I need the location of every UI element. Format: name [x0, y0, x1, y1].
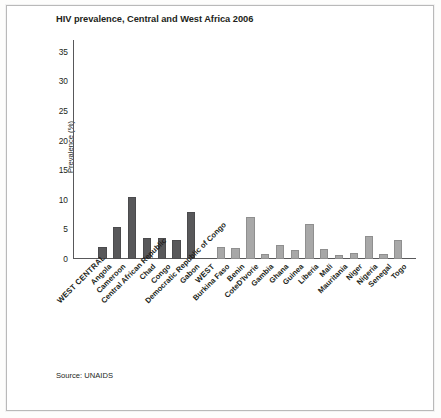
- bar: [394, 240, 402, 259]
- x-axis-ticks: WEST CENTRALAngolaCameroonCentral Africa…: [73, 262, 433, 382]
- bar: [276, 245, 284, 259]
- bar: [231, 248, 239, 259]
- y-axis-ticks: 05101520253035: [36, 0, 68, 418]
- bar: [113, 227, 121, 259]
- y-tick-label: 10: [38, 195, 68, 205]
- bar: [261, 254, 269, 259]
- bar: [246, 217, 254, 259]
- source-note: Source: UNAIDS: [56, 371, 113, 380]
- bar: [320, 249, 328, 259]
- y-tick-label: 30: [38, 76, 68, 86]
- bar: [291, 250, 299, 259]
- figure-page: HIV prevalence, Central and West Africa …: [0, 0, 441, 418]
- y-tick-label: 5: [38, 224, 68, 234]
- y-tick-label: 25: [38, 106, 68, 116]
- y-tick-label: 0: [38, 254, 68, 264]
- bar: [379, 254, 387, 259]
- chart-title: HIV prevalence, Central and West Africa …: [56, 14, 253, 24]
- bar: [305, 224, 313, 259]
- bar: [128, 197, 136, 259]
- bar: [350, 253, 358, 260]
- y-tick-label: 35: [38, 47, 68, 57]
- bar: [335, 255, 343, 259]
- bar: [172, 240, 180, 259]
- y-tick-label: 15: [38, 165, 68, 175]
- bar: [217, 247, 225, 259]
- y-tick-label: 20: [38, 136, 68, 146]
- bar: [365, 236, 373, 259]
- bar-series: [73, 40, 416, 259]
